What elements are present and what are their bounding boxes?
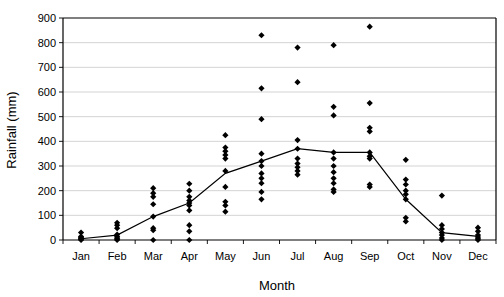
y-tick-label: 0	[50, 234, 56, 246]
x-axis-title: Month	[259, 278, 295, 293]
chart-svg: 0100200300400500600700800900 JanFebMarAp…	[0, 0, 504, 297]
x-tick-label: Oct	[397, 250, 414, 262]
y-tick-label: 900	[38, 12, 56, 24]
rainfall-scatter-chart: 0100200300400500600700800900 JanFebMarAp…	[0, 0, 504, 297]
y-tick-label: 300	[38, 160, 56, 172]
y-tick-label: 100	[38, 209, 56, 221]
y-axis-title: Rainfall (mm)	[4, 91, 19, 168]
x-tick-label: Sep	[360, 250, 380, 262]
y-tick-label: 600	[38, 86, 56, 98]
y-tick-label: 200	[38, 185, 56, 197]
x-tick-label: Apr	[181, 250, 198, 262]
x-tick-label: Jun	[253, 250, 271, 262]
x-tick-label: Jan	[72, 250, 90, 262]
x-tick-label: Nov	[432, 250, 452, 262]
y-tick-label: 800	[38, 37, 56, 49]
y-tick-label: 500	[38, 111, 56, 123]
y-tick-label: 400	[38, 135, 56, 147]
x-tick-label: May	[215, 250, 236, 262]
x-tick-label: Dec	[468, 250, 488, 262]
x-tick-label: Feb	[108, 250, 127, 262]
x-tick-label: Mar	[144, 250, 163, 262]
y-tick-label: 700	[38, 61, 56, 73]
x-tick-label: Jul	[291, 250, 305, 262]
x-tick-label: Aug	[324, 250, 344, 262]
